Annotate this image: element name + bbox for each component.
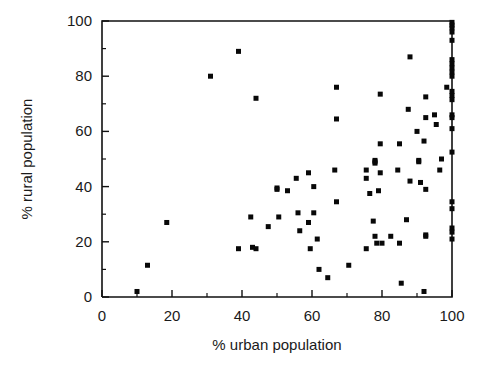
- x-tick-label: 100: [439, 307, 464, 324]
- data-point: [423, 234, 428, 239]
- data-point: [378, 141, 383, 146]
- data-point: [311, 210, 316, 215]
- data-point: [399, 281, 404, 286]
- x-axis-tick-labels: 020406080100: [98, 307, 465, 324]
- scatter-markers: [135, 20, 455, 294]
- data-point: [334, 85, 339, 90]
- data-point: [373, 234, 378, 239]
- y-tick-label: 100: [67, 12, 92, 29]
- data-point: [408, 54, 413, 59]
- data-point: [416, 159, 421, 164]
- data-point: [450, 237, 455, 242]
- data-point: [418, 180, 423, 185]
- data-point: [450, 38, 455, 43]
- x-tick-label: 40: [234, 307, 251, 324]
- data-point: [373, 161, 378, 166]
- data-point: [346, 263, 351, 268]
- data-point: [364, 176, 369, 181]
- data-point: [422, 139, 427, 144]
- data-point: [145, 263, 150, 268]
- data-point: [306, 170, 311, 175]
- y-tick-label: 20: [75, 233, 92, 250]
- data-point: [317, 267, 322, 272]
- data-point: [315, 237, 320, 242]
- data-point: [432, 112, 437, 117]
- y-tick-label: 80: [75, 67, 92, 84]
- data-point: [422, 289, 427, 294]
- data-point: [378, 92, 383, 97]
- y-axis-ticks: [102, 21, 109, 297]
- data-point: [364, 168, 369, 173]
- scatter-chart-canvas: 020406080100 020406080100 % urban popula…: [0, 0, 485, 377]
- y-tick-label: 0: [84, 288, 92, 305]
- data-point: [380, 241, 385, 246]
- data-point: [423, 94, 428, 99]
- data-point: [450, 97, 455, 102]
- data-point: [236, 246, 241, 251]
- data-point: [332, 168, 337, 173]
- data-point: [397, 241, 402, 246]
- data-point: [306, 220, 311, 225]
- data-point: [276, 214, 281, 219]
- data-point: [311, 184, 316, 189]
- data-point: [248, 214, 253, 219]
- data-point: [450, 150, 455, 155]
- data-point: [164, 220, 169, 225]
- y-axis-title: % rural population: [18, 99, 35, 220]
- data-point: [423, 115, 428, 120]
- x-axis-title: % urban population: [212, 336, 341, 353]
- data-point: [296, 210, 301, 215]
- data-point: [406, 107, 411, 112]
- data-point: [423, 187, 428, 192]
- data-point: [275, 187, 280, 192]
- scatter-plot-figure: 020406080100 020406080100 % urban popula…: [0, 0, 485, 377]
- data-point: [374, 241, 379, 246]
- data-point: [439, 157, 444, 162]
- data-point: [397, 141, 402, 146]
- data-point: [208, 74, 213, 79]
- data-point: [450, 126, 455, 131]
- data-point: [367, 191, 372, 196]
- data-point: [408, 179, 413, 184]
- data-point: [434, 122, 439, 127]
- x-tick-label: 80: [374, 307, 391, 324]
- data-point: [450, 30, 455, 35]
- data-point: [404, 217, 409, 222]
- y-axis-tick-labels: 020406080100: [67, 12, 92, 305]
- y-tick-label: 60: [75, 122, 92, 139]
- x-tick-label: 0: [98, 307, 106, 324]
- data-point: [325, 275, 330, 280]
- data-point: [294, 176, 299, 181]
- data-point: [236, 49, 241, 54]
- x-tick-label: 20: [164, 307, 181, 324]
- data-point: [450, 206, 455, 211]
- data-point: [254, 96, 259, 101]
- data-point: [437, 168, 442, 173]
- data-point: [364, 246, 369, 251]
- data-point: [297, 228, 302, 233]
- data-point: [376, 188, 381, 193]
- data-point: [334, 116, 339, 121]
- plot-frame: [102, 21, 452, 297]
- data-point: [395, 168, 400, 173]
- data-point: [450, 199, 455, 204]
- data-point: [388, 234, 393, 239]
- data-point: [450, 230, 455, 235]
- data-point: [285, 188, 290, 193]
- data-point: [135, 289, 140, 294]
- data-point: [266, 224, 271, 229]
- data-point: [450, 74, 455, 79]
- data-point: [415, 129, 420, 134]
- data-point: [450, 115, 455, 120]
- data-point: [334, 199, 339, 204]
- data-point: [444, 85, 449, 90]
- x-tick-label: 60: [304, 307, 321, 324]
- data-point: [371, 219, 376, 224]
- data-point: [378, 170, 383, 175]
- data-point: [254, 246, 259, 251]
- y-tick-label: 40: [75, 178, 92, 195]
- x-axis-ticks: [102, 290, 452, 297]
- data-point: [308, 246, 313, 251]
